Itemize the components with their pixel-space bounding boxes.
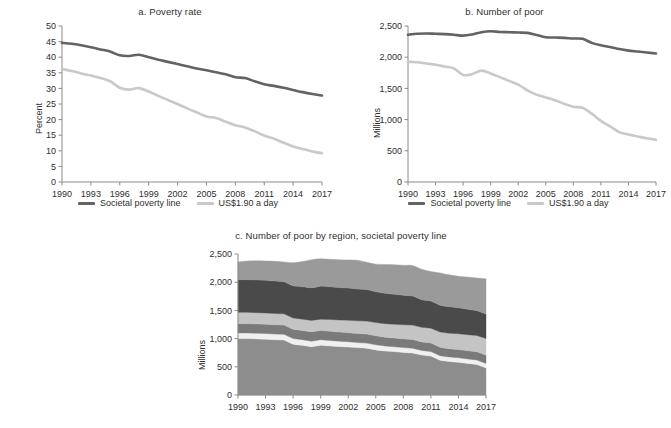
panel-a-legend: Societal poverty line US$1.90 a day	[8, 198, 348, 208]
svg-text:1,500: 1,500	[209, 306, 232, 316]
legend-item-societal-poverty-line-b: Societal poverty line	[408, 198, 511, 208]
svg-text:2008: 2008	[393, 402, 413, 412]
legend-swatch-societal-b	[408, 202, 425, 205]
svg-text:1,000: 1,000	[209, 334, 232, 344]
legend-label-us190: US$1.90 a day	[219, 198, 279, 208]
svg-text:1996: 1996	[283, 402, 303, 412]
svg-text:1,000: 1,000	[379, 115, 402, 125]
svg-text:1,500: 1,500	[379, 84, 402, 94]
svg-text:40: 40	[46, 52, 56, 62]
svg-text:2,000: 2,000	[379, 52, 402, 62]
svg-text:2,500: 2,500	[209, 249, 232, 259]
legend-label-us190-b: US$1.90 a day	[549, 198, 609, 208]
svg-text:1993: 1993	[256, 402, 276, 412]
svg-text:20: 20	[46, 115, 56, 125]
svg-text:0: 0	[397, 177, 402, 187]
svg-text:1990: 1990	[228, 402, 248, 412]
svg-text:500: 500	[217, 362, 232, 372]
svg-text:1999: 1999	[311, 402, 331, 412]
svg-text:2005: 2005	[366, 402, 386, 412]
svg-text:45: 45	[46, 37, 56, 47]
legend-item-us190-a-day: US$1.90 a day	[197, 198, 279, 208]
legend-label-societal-b: Societal poverty line	[430, 198, 511, 208]
svg-text:5: 5	[51, 162, 56, 172]
svg-text:15: 15	[46, 130, 56, 140]
svg-text:0: 0	[51, 177, 56, 187]
panel-c-y-axis-label: Millions	[197, 340, 207, 370]
panel-poor-by-region: c. Number of poor by region, societal po…	[176, 228, 506, 428]
legend-swatch-us190	[197, 202, 214, 205]
legend-swatch-us190-b	[527, 202, 544, 205]
panel-poverty-rate: a. Poverty rate 051015202530354045501990…	[0, 0, 340, 222]
svg-text:10: 10	[46, 146, 56, 156]
legend-item-us190-a-day-b: US$1.90 a day	[527, 198, 609, 208]
svg-text:35: 35	[46, 68, 56, 78]
svg-text:0: 0	[227, 390, 232, 400]
svg-text:2002: 2002	[338, 402, 358, 412]
panel-b-plot: 05001,0001,5002,0002,5001990199319961999…	[338, 0, 671, 222]
legend-label-societal: Societal poverty line	[100, 198, 181, 208]
svg-text:25: 25	[46, 99, 56, 109]
svg-text:30: 30	[46, 84, 56, 94]
panel-b-legend: Societal poverty line US$1.90 a day	[342, 198, 671, 208]
panel-a-plot: 0510152025303540455019901993199619992002…	[0, 0, 340, 222]
legend-item-societal-poverty-line: Societal poverty line	[78, 198, 181, 208]
svg-text:500: 500	[387, 146, 402, 156]
svg-text:2,500: 2,500	[379, 21, 402, 31]
panel-c-plot: 05001,0001,5002,0002,5001990199319961999…	[176, 228, 506, 428]
svg-text:2017: 2017	[476, 402, 496, 412]
svg-text:2,000: 2,000	[209, 277, 232, 287]
panel-b-y-axis-label: Millions	[372, 108, 382, 138]
svg-text:2014: 2014	[448, 402, 468, 412]
svg-text:2011: 2011	[421, 402, 440, 412]
panel-number-of-poor: b. Number of poor 05001,0001,5002,0002,5…	[338, 0, 671, 222]
legend-swatch-societal	[78, 202, 95, 205]
svg-text:50: 50	[46, 21, 56, 31]
panel-a-y-axis-label: Percent	[34, 103, 44, 134]
